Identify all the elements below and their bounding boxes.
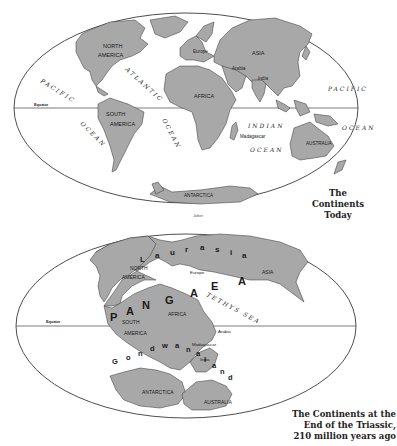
label-asia: ASIA xyxy=(252,50,265,56)
svg-text:AMERICA: AMERICA xyxy=(110,121,135,127)
label-australia: AUSTRALIA xyxy=(204,399,232,405)
label-north-america: NORTH xyxy=(103,43,122,49)
label-madagascar: Madagascar xyxy=(240,134,266,139)
svg-text:P: P xyxy=(110,311,117,323)
svg-text:n: n xyxy=(186,345,191,354)
label-africa: AFRICA xyxy=(194,93,215,99)
label-pacific-ocean-east: PACIFIC xyxy=(327,85,368,92)
svg-text:a: a xyxy=(155,251,160,260)
svg-text:s: s xyxy=(215,245,220,254)
label-south-america: SOUTH xyxy=(106,111,125,117)
svg-text:AMERICA: AMERICA xyxy=(98,52,123,58)
svg-text:a: a xyxy=(242,251,247,260)
svg-text:d: d xyxy=(150,344,155,353)
svg-text:A: A xyxy=(190,287,198,299)
svg-text:G: G xyxy=(112,357,118,366)
label-arabia: Arabia xyxy=(218,329,231,334)
label-antarctica: ANTARCTICA xyxy=(142,389,174,395)
credit-label: Jober xyxy=(193,213,203,218)
svg-text:OCEAN: OCEAN xyxy=(250,146,283,153)
svg-text:u: u xyxy=(170,248,175,257)
svg-text:AMERICA: AMERICA xyxy=(124,330,147,336)
label-indian-ocean: INDIAN xyxy=(247,122,284,129)
label-asia: ASIA xyxy=(262,269,274,275)
label-north-america: NORTH xyxy=(130,265,148,271)
label-australia: AUSTRALIA xyxy=(306,141,332,146)
svg-text:d: d xyxy=(228,373,233,382)
svg-text:AMERICA: AMERICA xyxy=(122,274,145,280)
svg-text:o: o xyxy=(126,353,131,362)
svg-text:OCEAN: OCEAN xyxy=(342,124,375,131)
svg-text:N: N xyxy=(142,299,150,311)
equator-label: Equator xyxy=(34,103,49,107)
label-antarctica: ANTARCTICA xyxy=(184,193,214,198)
label-india: India xyxy=(258,76,268,81)
svg-text:w: w xyxy=(161,341,168,350)
svg-text:A: A xyxy=(126,305,134,317)
map-continents-today: NORTH AMERICA SOUTH AMERICA Europe ASIA … xyxy=(0,0,397,215)
label-arabia: Arabia xyxy=(232,66,246,71)
caption-continents-triassic: The Continents at the End of the Triassi… xyxy=(292,409,396,442)
equator-label: Equator xyxy=(46,320,61,324)
svg-text:G: G xyxy=(165,294,174,306)
label-madagascar: Madagascar xyxy=(192,342,217,347)
label-africa: AFRICA xyxy=(168,311,187,317)
world-map-today: NORTH AMERICA SOUTH AMERICA Europe ASIA … xyxy=(0,0,397,215)
svg-text:n: n xyxy=(138,349,143,358)
svg-text:r: r xyxy=(185,245,188,254)
label-europe: Europe xyxy=(193,49,208,54)
svg-text:i: i xyxy=(230,248,232,257)
label-europe: Europe xyxy=(190,270,205,275)
svg-text:E: E xyxy=(211,280,218,292)
label-south-america: SOUTH xyxy=(122,319,140,325)
svg-text:L: L xyxy=(140,255,145,264)
caption-continents-today: The Continents Today xyxy=(302,188,374,221)
svg-text:n: n xyxy=(220,367,225,376)
svg-text:l: l xyxy=(204,355,206,364)
svg-text:a: a xyxy=(200,243,205,252)
svg-text:A: A xyxy=(238,275,246,287)
